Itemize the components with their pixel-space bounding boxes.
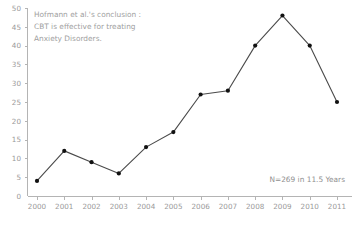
conclusion-note-line-3: Anxiety Disorders. [34,34,102,43]
y-axis: 05101520253035404550 [12,4,28,201]
data-point-marker [144,145,148,149]
y-tick-label: 40 [12,41,22,50]
y-tick-label: 25 [12,98,21,107]
sample-size-note: N=269 in 11.5 Years [269,175,345,184]
y-tick-label: 20 [12,117,22,126]
y-tick-label: 35 [12,60,21,69]
chart-canvas: 05101520253035404550 2000200120022003200… [0,0,360,227]
x-tick-label: 2010 [301,202,320,211]
x-tick-label: 2003 [110,202,128,211]
x-tick-label: 2001 [55,202,73,211]
data-point-marker [335,100,339,104]
conclusion-note-line-1: Hofmann et al.'s conclusion : [34,10,141,19]
x-tick-label: 2009 [273,202,292,211]
x-tick-label: 2000 [28,202,47,211]
y-tick-label: 10 [12,154,22,163]
x-tick-label: 2004 [137,202,156,211]
data-point-marker [62,149,66,153]
x-tick-label: 2008 [246,202,265,211]
y-tick-label: 15 [12,135,21,144]
y-tick-label: 30 [12,79,22,88]
y-tick-label: 0 [16,192,21,201]
data-point-marker [226,89,230,93]
data-point-marker [35,179,39,183]
conclusion-note-line-2: CBT is effective for treating [34,22,136,31]
x-tick-label: 2006 [191,202,210,211]
line-chart: 05101520253035404550 2000200120022003200… [0,0,360,227]
y-tick-label: 5 [16,173,21,182]
y-tick-label: 45 [12,23,21,32]
data-point-marker [89,160,93,164]
x-tick-label: 2007 [219,202,237,211]
data-point-marker [308,44,312,48]
data-point-marker [280,13,284,17]
data-point-marker [117,171,121,175]
data-point-marker [199,92,203,96]
x-tick-label: 2002 [82,202,100,211]
x-tick-label: 2011 [328,202,346,211]
x-tick-label: 2005 [164,202,182,211]
data-point-marker [171,130,175,134]
data-point-marker [253,44,257,48]
y-tick-label: 50 [12,4,22,13]
x-axis: 2000200120022003200420052006200720082009… [28,197,353,212]
